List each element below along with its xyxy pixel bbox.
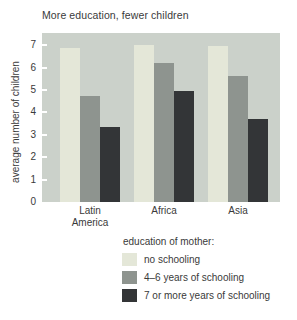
bar-africa-series-1 — [154, 63, 174, 202]
y-tick-mark — [42, 44, 47, 46]
y-tick-label: 0 — [0, 196, 36, 208]
legend-swatch — [122, 289, 137, 302]
y-tick-mark — [42, 67, 47, 69]
legend-item-label: 4–6 years of schooling — [144, 272, 244, 283]
y-tick-label: 4 — [0, 106, 36, 118]
y-axis-label: average number of children — [10, 61, 21, 183]
legend-items: no schooling4–6 years of schooling7 or m… — [122, 250, 294, 304]
bar-asia-series-1 — [228, 76, 248, 202]
y-tick-label: 5 — [0, 84, 36, 96]
bar-africa-series-0 — [134, 45, 154, 202]
y-tick-label: 1 — [0, 174, 36, 186]
bar-latin-america-series-1 — [80, 96, 100, 202]
y-tick-mark — [42, 134, 47, 136]
bar-africa-series-2 — [174, 91, 194, 202]
y-tick-mark — [42, 89, 47, 91]
x-tick-label: Africa — [140, 205, 188, 217]
y-tick-mark — [42, 156, 47, 158]
chart-canvas: More education, fewer children average n… — [0, 0, 297, 320]
chart-title: More education, fewer children — [42, 9, 189, 21]
legend-item: 4–6 years of schooling — [122, 268, 294, 286]
y-tick-mark — [42, 111, 47, 113]
legend-item-label: 7 or more years of schooling — [144, 290, 270, 301]
bar-asia-series-0 — [208, 46, 228, 202]
legend: education of mother: no schooling4–6 yea… — [122, 236, 294, 304]
legend-item: 7 or more years of schooling — [122, 286, 294, 304]
x-tick-label: Latin America — [66, 205, 114, 228]
legend-title: education of mother: — [122, 236, 294, 247]
y-tick-label: 2 — [0, 151, 36, 163]
x-tick-label: Asia — [214, 205, 262, 217]
legend-item-label: no schooling — [144, 254, 200, 265]
legend-swatch — [122, 253, 137, 266]
y-tick-mark — [42, 179, 47, 181]
legend-item: no schooling — [122, 250, 294, 268]
legend-swatch — [122, 271, 137, 284]
y-tick-label: 7 — [0, 39, 36, 51]
y-tick-label: 6 — [0, 62, 36, 74]
plot-area — [42, 33, 280, 202]
bar-latin-america-series-2 — [100, 127, 120, 202]
bar-asia-series-2 — [248, 119, 268, 202]
bar-latin-america-series-0 — [60, 48, 80, 202]
y-tick-label: 3 — [0, 129, 36, 141]
